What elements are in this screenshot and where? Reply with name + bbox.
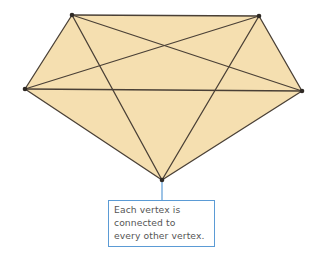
vertex-dot-top-left [70, 13, 75, 18]
vertex-dot-right [300, 89, 305, 94]
vertex-dot-top-right [257, 14, 262, 19]
callout-text-line-1: Each vertex is [114, 203, 214, 216]
callout-box: Each vertex is connected to every other … [108, 200, 215, 247]
vertex-dot-bottom [160, 178, 165, 183]
pentagon-fill [25, 15, 302, 180]
vertex-dot-left [23, 87, 28, 92]
callout-text-line-2: connected to [114, 216, 214, 229]
callout-text-line-3: every other vertex. [114, 229, 214, 242]
